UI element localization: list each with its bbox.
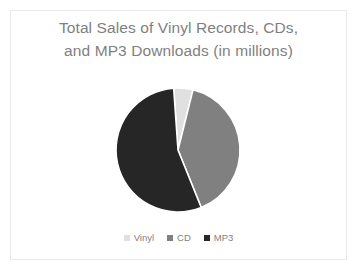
legend-item-cd[interactable]: CD xyxy=(167,232,191,243)
slide-canvas: Total Sales of Vinyl Records, CDs, and M… xyxy=(0,0,359,272)
pie-svg xyxy=(10,10,347,260)
legend-item-vinyl[interactable]: Vinyl xyxy=(124,232,154,243)
legend-swatch-icon xyxy=(204,235,210,241)
pie-slice-group xyxy=(116,88,240,212)
legend-label: Vinyl xyxy=(134,232,154,243)
legend-label: MP3 xyxy=(214,232,234,243)
chart-legend: VinylCDMP3 xyxy=(10,232,347,243)
pie-chart: Total Sales of Vinyl Records, CDs, and M… xyxy=(10,10,347,260)
legend-label: CD xyxy=(177,232,191,243)
pie-plot-area xyxy=(10,10,347,260)
legend-swatch-icon xyxy=(167,235,173,241)
legend-swatch-icon xyxy=(124,235,130,241)
legend-item-mp3[interactable]: MP3 xyxy=(204,232,234,243)
